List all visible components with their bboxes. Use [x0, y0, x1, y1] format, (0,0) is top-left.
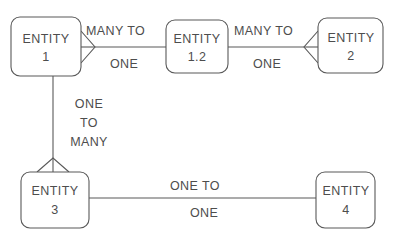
entity-label-line1-entity-4: ENTITY	[323, 184, 370, 198]
entity-label-line1-entity-2: ENTITY	[328, 31, 375, 45]
relationship-label-above-entity3-entity4: ONE TO	[170, 179, 220, 193]
relationship-label-stacked-line2-entity1-entity3: TO	[80, 116, 98, 130]
entity-node-entity-3[interactable]: ENTITY 3	[21, 172, 89, 228]
entity-box-entity-2[interactable]	[318, 18, 383, 73]
relationship-label-stacked-line3-entity1-entity3: MANY	[70, 135, 108, 149]
entity-box-entity-1[interactable]	[11, 17, 81, 76]
relationship-label-stacked-line1-entity1-entity3: ONE	[75, 97, 103, 111]
entity-box-entity-3[interactable]	[21, 172, 89, 228]
relationship-label-below-entity12-entity2: ONE	[253, 57, 281, 71]
entity-label-line1-entity-1: ENTITY	[23, 32, 70, 46]
er-diagram-svg: ENTITY 1 ENTITY 1.2 ENTITY 2 ENTITY 3 EN…	[0, 0, 394, 242]
entity-label-line1-entity-1-2: ENTITY	[174, 32, 221, 46]
relationship-label-below-entity3-entity4: ONE	[190, 206, 218, 220]
entity-label-line2-entity-3: 3	[51, 203, 58, 217]
entity-label-line1-entity-3: ENTITY	[32, 184, 79, 198]
entity-box-entity-4[interactable]	[316, 172, 375, 228]
entity-box-entity-1-2[interactable]	[166, 20, 228, 73]
entity-label-line2-entity-1: 1	[42, 50, 49, 64]
relationship-label-above-entity1-entity12: MANY TO	[86, 24, 145, 38]
entity-label-line2-entity-1-2: 1.2	[188, 50, 207, 64]
entity-label-line2-entity-4: 4	[342, 203, 349, 217]
entity-label-line2-entity-2: 2	[347, 49, 354, 63]
relationship-label-above-entity12-entity2: MANY TO	[234, 24, 293, 38]
entity-node-entity-1-2[interactable]: ENTITY 1.2	[166, 20, 228, 73]
entity-node-entity-1[interactable]: ENTITY 1	[11, 17, 81, 76]
entity-node-entity-2[interactable]: ENTITY 2	[318, 18, 383, 73]
entity-node-entity-4[interactable]: ENTITY 4	[316, 172, 375, 228]
relationship-label-below-entity1-entity12: ONE	[110, 57, 138, 71]
er-diagram-canvas: ENTITY 1 ENTITY 1.2 ENTITY 2 ENTITY 3 EN…	[0, 0, 394, 242]
